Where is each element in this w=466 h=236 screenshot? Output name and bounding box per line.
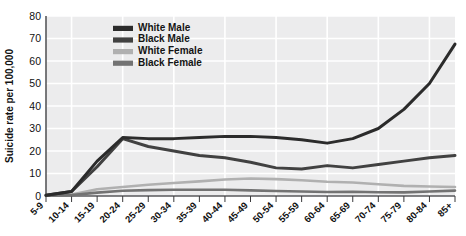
legend-label-black-male: Black Male [138,33,190,44]
legend-label-white-female: White Female [138,45,203,56]
legend-swatch-white-female [113,49,133,54]
legend-label-black-female: Black Female [138,57,202,68]
legend-swatch-black-male [113,37,133,42]
y-tick-label-20: 20 [29,145,41,157]
y-axis-tick-labels: 01020304050607080 [29,10,41,202]
y-axis-title: Suicide rate per 100,000 [4,49,15,163]
legend-label-white-male: White Male [138,22,191,33]
suicide-rate-line-chart: 01020304050607080 5-910-1415-1920-2425-2… [0,0,466,236]
legend-swatch-white-male [113,26,133,31]
y-tick-label-60: 60 [29,55,41,67]
y-tick-label-50: 50 [29,77,41,89]
y-tick-label-40: 40 [29,100,41,112]
chart-canvas: 01020304050607080 5-910-1415-1920-2425-2… [0,0,466,236]
y-tick-label-30: 30 [29,122,41,134]
legend-swatch-black-female [113,61,133,66]
y-tick-label-80: 80 [29,10,41,22]
y-tick-label-10: 10 [29,167,41,179]
y-tick-label-70: 70 [29,32,41,44]
